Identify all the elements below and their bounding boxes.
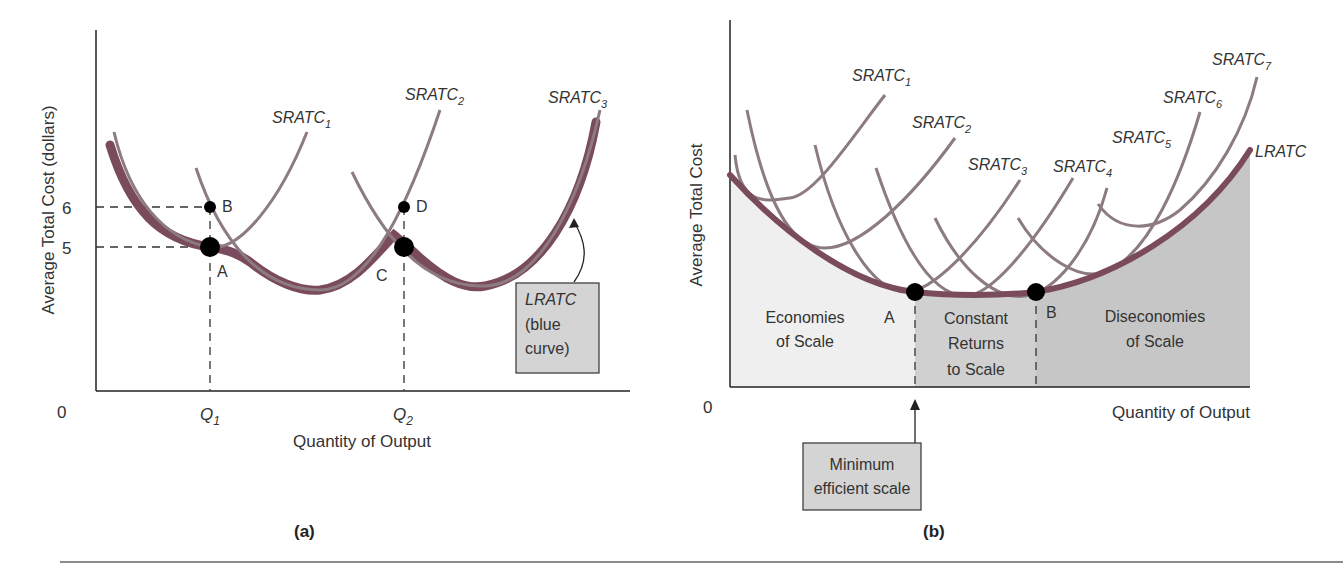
constant-line2: Returns: [948, 335, 1004, 352]
economies-line2: of Scale: [776, 333, 834, 350]
sratc1-curve-a: [114, 132, 307, 247]
panel-a-caption: (a): [294, 522, 315, 541]
point-b: [204, 201, 216, 213]
lratc-label-b: LRATC: [1255, 143, 1307, 160]
x-tick-q1: Q1: [200, 405, 220, 428]
sratc3-curve-a: [352, 110, 600, 286]
diseconomies-line1: Diseconomies: [1105, 308, 1205, 325]
point-d-label: D: [416, 198, 428, 215]
callout-line2-a: (blue: [525, 316, 561, 333]
constant-line1: Constant: [944, 310, 1009, 327]
point-a-label: A: [217, 263, 228, 280]
sratc3-label-a: SRATC3: [548, 89, 608, 110]
point-b-b: [1027, 283, 1045, 301]
diseconomies-line2: of Scale: [1126, 333, 1184, 350]
panel-a: B A C D 6 5 Average Total Cost (dollars)…: [39, 30, 630, 541]
sratc1-curve-b: [735, 95, 885, 200]
point-a-b: [906, 283, 924, 301]
point-c-label: C: [376, 267, 388, 284]
mes-line2: efficient scale: [814, 480, 911, 497]
sratc6-label-b: SRATC6: [1163, 89, 1223, 110]
y-tick-6: 6: [62, 199, 71, 218]
constant-line3: to Scale: [947, 361, 1005, 378]
figure: B A C D 6 5 Average Total Cost (dollars)…: [0, 0, 1343, 572]
callout-arrow-a: [574, 222, 584, 282]
origin-a: 0: [57, 403, 66, 422]
origin-b: 0: [703, 398, 712, 417]
sratc4-curve-b: [876, 168, 1073, 296]
point-a: [200, 237, 220, 257]
point-a-label-b: A: [884, 309, 895, 326]
sratc3-label-b: SRATC3: [968, 156, 1028, 177]
panel-b: A B Economies of Scale Constant Returns …: [687, 20, 1307, 541]
y-axis-label-a: Average Total Cost (dollars): [39, 105, 58, 314]
lratc-curve-a: [110, 122, 596, 290]
x-axis-label-a: Quantity of Output: [293, 432, 431, 451]
panel-b-caption: (b): [923, 522, 945, 541]
sratc2-label-b: SRATC2: [912, 114, 971, 135]
point-b-label: B: [222, 198, 233, 215]
point-b-label-b: B: [1046, 304, 1057, 321]
sratc1-label-a: SRATC1: [272, 109, 331, 130]
point-c: [394, 237, 414, 257]
x-tick-q2: Q2: [393, 405, 413, 428]
mes-callout-box: [803, 443, 921, 510]
arrowhead-icon: [910, 399, 920, 410]
point-d: [398, 201, 410, 213]
callout-line1-a: LRATC: [525, 291, 577, 308]
sratc1-label-b: SRATC1: [852, 67, 911, 88]
arrowhead-icon: [569, 218, 579, 228]
mes-line1: Minimum: [830, 456, 895, 473]
y-tick-5: 5: [62, 239, 71, 258]
y-axis-label-b: Average Total Cost: [687, 143, 706, 286]
sratc4-label-b: SRATC4: [1053, 158, 1112, 179]
sratc5-label-b: SRATC5: [1112, 129, 1172, 150]
x-axis-label-b: Quantity of Output: [1112, 403, 1250, 422]
sratc7-label-b: SRATC7: [1212, 51, 1272, 72]
economies-line1: Economies: [765, 309, 844, 326]
sratc2-label-a: SRATC2: [405, 86, 464, 107]
callout-line3-a: curve): [525, 340, 569, 357]
